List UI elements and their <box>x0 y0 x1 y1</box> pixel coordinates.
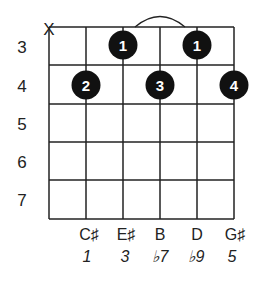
degree: 3 <box>121 248 130 265</box>
fret-number: 3 <box>17 38 26 57</box>
note-name: E♯ <box>117 226 136 243</box>
finger-dot: 1 <box>183 31 212 60</box>
finger-dot: 3 <box>146 71 175 100</box>
note-name: D <box>191 226 203 243</box>
degree: ♭7 <box>152 248 170 265</box>
note-name: C♯ <box>79 226 99 243</box>
chord-degrees: 1 3 ♭7 ♭9 5 <box>83 248 237 265</box>
chord-diagram: X 3 4 5 6 7 1 1 2 3 4 C♯ E♯ <box>0 0 263 281</box>
degree: 5 <box>228 248 237 265</box>
svg-text:1: 1 <box>193 37 201 54</box>
finger-dot: 1 <box>109 31 138 60</box>
fret-number: 5 <box>17 115 26 134</box>
fret-numbers: 3 4 5 6 7 <box>17 38 26 210</box>
note-names: C♯ E♯ B D G♯ <box>79 226 245 243</box>
note-name: G♯ <box>225 226 245 243</box>
note-name: B <box>155 226 166 243</box>
svg-text:3: 3 <box>156 77 164 94</box>
svg-text:1: 1 <box>119 37 127 54</box>
muted-string-marker: X <box>43 20 54 39</box>
fret-number: 4 <box>17 77 26 96</box>
fret-number: 7 <box>17 191 26 210</box>
svg-text:4: 4 <box>230 77 239 94</box>
finger-dot: 2 <box>72 71 101 100</box>
degree: ♭9 <box>188 248 205 265</box>
barre-arc <box>135 17 185 28</box>
svg-text:2: 2 <box>82 77 90 94</box>
fret-number: 6 <box>17 153 26 172</box>
finger-dot: 4 <box>220 71 249 100</box>
degree: 1 <box>83 248 92 265</box>
